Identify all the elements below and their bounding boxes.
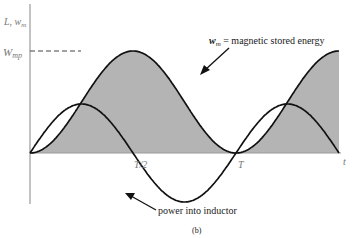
figure-caption: (b) — [192, 226, 202, 235]
power-annotation: power into inductor — [158, 205, 238, 216]
inductor-energy-diagram: L, wm Wmp T/2 T t wm = magnetic stored e… — [0, 0, 352, 238]
peak-label: Wmp — [3, 46, 22, 60]
x-axis-label: t — [343, 156, 346, 167]
power-arrowhead-icon — [125, 193, 135, 200]
energy-arrow — [205, 48, 229, 70]
y-axis-label: L, wm — [3, 16, 26, 29]
tick-label-period: T — [238, 159, 245, 170]
energy-annotation: wm = magnetic stored energy — [209, 35, 325, 48]
power-arrow — [131, 196, 156, 210]
tick-label-half-period: T/2 — [134, 159, 147, 170]
